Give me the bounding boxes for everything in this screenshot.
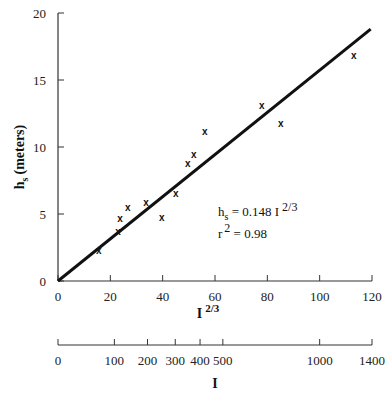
y-tick-label: 0: [40, 274, 47, 289]
secondary-axis-title: I: [212, 376, 217, 391]
data-point-marker: x: [191, 149, 197, 160]
x-tick-label: 100: [310, 289, 330, 304]
secondary-x-axis: 010020030040050010001400: [55, 339, 385, 368]
data-point-marker: x: [259, 100, 265, 111]
y-tick-label: 15: [33, 73, 46, 88]
data-point-marker: x: [202, 126, 208, 137]
x-tick-label: 40: [156, 289, 169, 304]
fit-line: [58, 29, 371, 281]
y-axis-title: hs(meters): [12, 124, 30, 189]
secondary-tick-label: 500: [213, 353, 233, 368]
data-point-marker: x: [115, 226, 121, 237]
r-squared-annotation: r2 = 0.98: [218, 221, 267, 241]
x-tick-label: 20: [104, 289, 117, 304]
data-point-marker: x: [173, 188, 179, 199]
data-point-marker: x: [143, 197, 149, 208]
secondary-tick-label: 200: [138, 353, 158, 368]
y-tick-label: 20: [33, 6, 46, 21]
data-point-marker: x: [96, 245, 102, 256]
equation-annotation: hs = 0.148 I2/3: [218, 200, 297, 222]
data-point-marker: x: [125, 202, 131, 213]
x-tick-label: 0: [55, 289, 62, 304]
secondary-tick-label: 400: [190, 353, 210, 368]
y-tick-label: 5: [40, 207, 47, 222]
scatter-chart: 05101520020406080100120 xxxxxxxxxxxxx hs…: [0, 0, 392, 394]
x-tick-label: 80: [261, 289, 274, 304]
data-point-marker: x: [278, 118, 284, 129]
regression-line: [58, 29, 371, 281]
data-point-marker: x: [159, 212, 165, 223]
secondary-tick-label: 1000: [307, 353, 333, 368]
data-point-marker: x: [185, 158, 191, 169]
secondary-tick-label: 300: [166, 353, 186, 368]
secondary-tick-label: 100: [105, 353, 125, 368]
x-axis-title: I2/3: [197, 302, 220, 321]
x-tick-label: 120: [362, 289, 382, 304]
secondary-tick-label: 0: [55, 353, 62, 368]
data-point-marker: x: [117, 213, 123, 224]
secondary-tick-label: 1400: [359, 353, 385, 368]
data-point-marker: x: [351, 50, 357, 61]
y-tick-label: 10: [33, 140, 46, 155]
